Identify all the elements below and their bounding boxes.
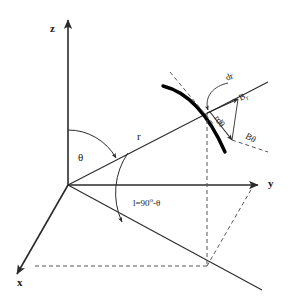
theta-arc [68,130,116,158]
tangent-dashed-line [170,72,215,126]
spherical-coordinate-figure: z y x θ r l=90o-θ dr Br rdθ Bθ [0,0,294,302]
dr-vector [207,99,238,113]
latitude-label-base: l=90 [133,198,150,208]
latitude-label: l=90o-θ [133,197,160,208]
dr-leader-curve [207,83,228,110]
latitude-label-tail: -θ [153,198,160,208]
x-axis [17,185,68,274]
x-axis-label: x [17,277,23,288]
radius-label: r [137,131,141,142]
ground-projection-line [68,185,262,290]
radial-line-r [68,82,268,185]
figure-canvas [0,0,294,302]
z-axis-label: z [50,23,55,34]
ground-to-y-axis-dashed [207,188,252,266]
y-axis-label: y [268,178,274,189]
theta-angle-label: θ [78,152,83,163]
vector-triangle-hypotenuse [232,99,238,140]
